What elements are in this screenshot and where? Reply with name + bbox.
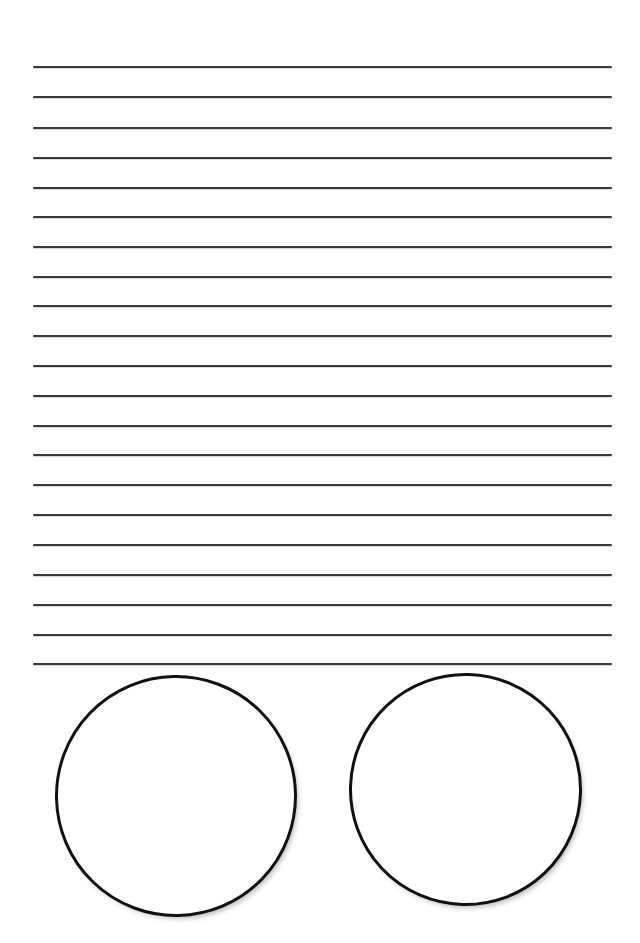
writing-line (33, 514, 612, 516)
writing-line (33, 604, 612, 606)
circle-row (0, 660, 640, 943)
writing-line (33, 574, 612, 576)
writing-line (33, 484, 612, 486)
writing-line (33, 305, 612, 307)
writing-line (33, 187, 612, 189)
writing-line (33, 425, 612, 427)
writing-line (33, 276, 612, 278)
writing-line (33, 634, 612, 636)
writing-line (33, 127, 612, 129)
worksheet-page (0, 0, 640, 943)
writing-line (33, 66, 612, 68)
answer-circle-right[interactable] (345, 669, 584, 908)
writing-line (33, 96, 612, 98)
writing-line (33, 544, 612, 546)
writing-line (33, 335, 612, 337)
writing-line (33, 395, 612, 397)
writing-line (33, 365, 612, 367)
writing-lines-area (0, 0, 640, 672)
answer-circle-left[interactable] (52, 672, 299, 919)
writing-line (33, 216, 612, 218)
writing-line (33, 157, 612, 159)
writing-line (33, 454, 612, 456)
writing-line (33, 246, 612, 248)
